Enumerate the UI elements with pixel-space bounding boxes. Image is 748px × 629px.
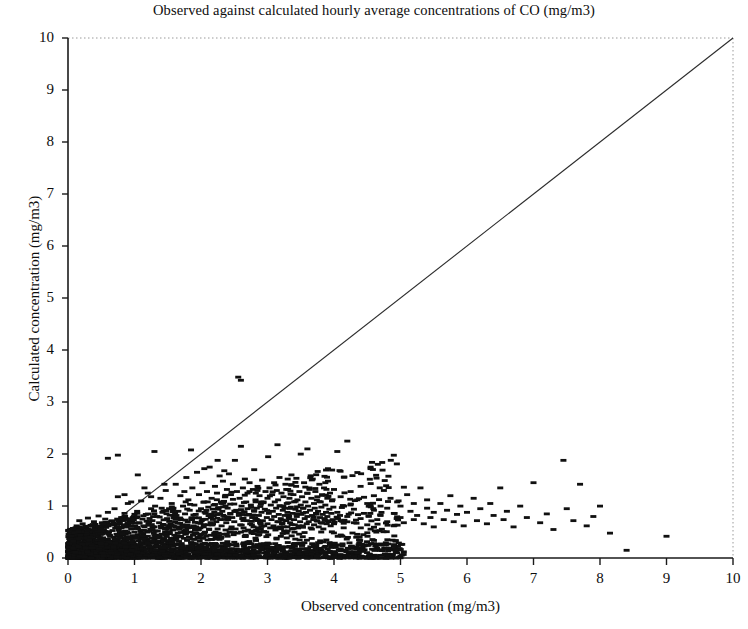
scatter-marker xyxy=(368,519,374,522)
scatter-marker xyxy=(285,546,291,549)
scatter-marker xyxy=(170,510,176,513)
scatter-marker xyxy=(377,486,383,489)
scatter-marker xyxy=(217,538,223,541)
scatter-marker xyxy=(431,511,437,514)
scatter-marker xyxy=(167,514,173,517)
scatter-marker xyxy=(96,525,102,528)
scatter-marker xyxy=(117,522,123,525)
scatter-marker xyxy=(324,515,330,518)
scatter-marker xyxy=(112,507,118,510)
scatter-marker xyxy=(331,555,337,558)
y-axis-tick-label: 1 xyxy=(28,497,54,514)
scatter-marker xyxy=(337,557,343,560)
scatter-marker xyxy=(366,515,372,518)
scatter-marker xyxy=(394,463,400,466)
scatter-marker xyxy=(590,515,596,518)
scatter-marker xyxy=(173,543,179,546)
scatter-marker xyxy=(185,525,191,528)
reference-line xyxy=(68,38,733,558)
scatter-marker xyxy=(284,511,290,514)
scatter-marker xyxy=(253,537,259,540)
scatter-marker xyxy=(292,545,298,548)
scatter-marker xyxy=(278,492,284,495)
scatter-marker xyxy=(75,530,81,533)
scatter-marker xyxy=(138,500,144,503)
scatter-marker xyxy=(454,513,460,516)
scatter-marker xyxy=(146,524,152,527)
scatter-marker xyxy=(176,552,182,555)
scatter-marker xyxy=(141,556,147,559)
scatter-marker xyxy=(333,546,339,549)
scatter-marker xyxy=(205,501,211,504)
y-axis-tick-label: 5 xyxy=(28,289,54,306)
scatter-marker xyxy=(296,490,302,493)
scatter-marker xyxy=(376,498,382,501)
x-axis-tick-label: 9 xyxy=(653,570,681,587)
scatter-marker xyxy=(297,553,303,556)
scatter-marker xyxy=(484,522,490,525)
scatter-marker xyxy=(183,529,189,532)
scatter-marker xyxy=(318,531,324,534)
scatter-marker xyxy=(285,530,291,533)
scatter-marker xyxy=(128,501,134,504)
scatter-marker xyxy=(342,491,348,494)
scatter-marker xyxy=(284,537,290,540)
scatter-marker xyxy=(336,548,342,551)
scatter-marker xyxy=(296,533,302,536)
scatter-marker xyxy=(517,505,523,508)
scatter-marker xyxy=(374,543,380,546)
scatter-marker xyxy=(337,469,343,472)
scatter-marker xyxy=(141,487,147,490)
scatter-marker xyxy=(369,538,375,541)
scatter-marker xyxy=(351,508,357,511)
scatter-plot xyxy=(0,0,748,629)
scatter-marker xyxy=(70,546,76,549)
scatter-marker xyxy=(305,505,311,508)
scatter-marker xyxy=(358,526,364,529)
scatter-marker xyxy=(267,495,273,498)
scatter-marker xyxy=(347,498,353,501)
scatter-marker xyxy=(223,542,229,545)
scatter-marker xyxy=(98,541,104,544)
scatter-marker xyxy=(383,557,389,560)
scatter-marker xyxy=(354,471,360,474)
scatter-marker xyxy=(325,467,331,470)
scatter-marker xyxy=(327,541,333,544)
scatter-marker xyxy=(231,531,237,534)
scatter-marker xyxy=(224,544,230,547)
scatter-marker xyxy=(244,514,250,517)
scatter-marker xyxy=(77,555,83,558)
scatter-marker xyxy=(180,546,186,549)
scatter-marker xyxy=(253,500,259,503)
scatter-marker xyxy=(368,482,374,485)
scatter-marker xyxy=(106,533,112,536)
scatter-marker xyxy=(268,518,274,521)
scatter-marker xyxy=(381,489,387,492)
scatter-marker xyxy=(487,502,493,505)
scatter-marker xyxy=(220,480,226,483)
scatter-marker xyxy=(173,535,179,538)
chart-figure: Observed against calculated hourly avera… xyxy=(0,0,748,629)
scatter-marker xyxy=(353,519,359,522)
scatter-marker xyxy=(299,495,305,498)
scatter-marker xyxy=(140,538,146,541)
scatter-marker xyxy=(251,509,257,512)
scatter-marker xyxy=(341,526,347,529)
scatter-marker xyxy=(544,513,550,516)
scatter-marker xyxy=(272,529,278,532)
scatter-marker xyxy=(268,504,274,507)
scatter-marker xyxy=(385,500,391,503)
scatter-marker xyxy=(276,547,282,550)
scatter-marker xyxy=(345,536,351,539)
scatter-marker xyxy=(102,518,108,521)
scatter-marker xyxy=(140,514,146,517)
scatter-marker xyxy=(424,498,430,501)
scatter-marker xyxy=(244,542,250,545)
scatter-marker xyxy=(331,488,337,491)
scatter-marker xyxy=(229,547,235,550)
scatter-marker xyxy=(101,555,107,558)
scatter-marker xyxy=(223,505,229,508)
scatter-marker xyxy=(251,553,257,556)
scatter-marker xyxy=(242,535,248,538)
scatter-marker xyxy=(150,540,156,543)
